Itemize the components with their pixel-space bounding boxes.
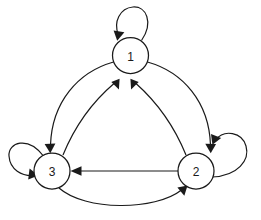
node-1-label: 1: [127, 50, 134, 64]
node-3[interactable]: 3: [34, 153, 70, 189]
state-diagram: 1 3 2: [0, 0, 261, 220]
edge-1-to-3[interactable]: [45, 62, 114, 153]
edge-2-to-3[interactable]: [71, 166, 179, 176]
edge-1-to-2-arrowhead: [205, 144, 216, 154]
edge-2-to-1-path: [136, 84, 186, 156]
node-2[interactable]: 2: [178, 153, 214, 189]
edge-2-to-3-arrowhead: [71, 166, 82, 176]
node-3-label: 3: [49, 165, 56, 179]
edge-1-to-3-arrowhead: [45, 144, 56, 154]
edge-3-to-1-path: [63, 84, 114, 156]
edge-1-to-3-path: [51, 62, 114, 145]
edge-3-to-2-path: [59, 188, 182, 206]
edge-1-to-2[interactable]: [148, 62, 217, 153]
node-1[interactable]: 1: [113, 38, 149, 74]
edge-1-to-1[interactable]: [114, 7, 148, 41]
node-2-label: 2: [193, 165, 200, 179]
edge-1-to-2-path: [148, 62, 211, 145]
nodes-layer: 1 3 2: [34, 38, 214, 190]
edge-2-to-1[interactable]: [130, 79, 186, 155]
edge-3-to-2-arrowhead: [177, 185, 187, 195]
graph-canvas: 1 3 2: [0, 0, 261, 220]
edge-2-to-2[interactable]: [211, 133, 247, 177]
edge-3-to-2[interactable]: [59, 185, 188, 205]
edge-3-to-1[interactable]: [63, 79, 120, 155]
